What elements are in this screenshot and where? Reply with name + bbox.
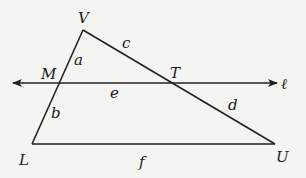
side-vl [32, 30, 83, 144]
point-label-t: T [170, 64, 181, 82]
point-label-m: M [40, 65, 57, 83]
line-label-ell: ℓ [281, 75, 287, 93]
segment-label-a: a [74, 51, 83, 69]
segment-label-c: c [122, 34, 131, 52]
segment-label-d: d [228, 96, 238, 114]
segment-label-b: b [51, 104, 61, 122]
point-label-l: L [18, 151, 29, 169]
point-label-v: V [78, 9, 91, 27]
point-label-u: U [276, 148, 290, 166]
geometry-diagram: V M T L U a b c d e f ℓ [0, 0, 306, 178]
segment-label-e: e [110, 84, 119, 102]
segment-label-f: f [138, 153, 147, 171]
